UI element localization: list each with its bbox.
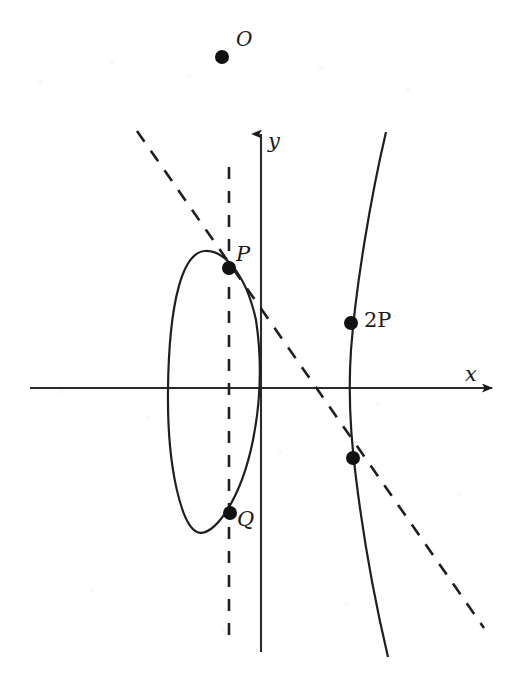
elliptic-curve-branch <box>350 132 388 657</box>
elliptic-curve-oval <box>168 251 260 533</box>
label-point-q: Q <box>237 509 254 530</box>
label-y-axis: y <box>268 131 280 152</box>
label-point-two-p: 2P <box>364 310 392 331</box>
label-origin: O <box>236 29 252 49</box>
point-p <box>222 261 236 275</box>
origin-point <box>215 50 229 64</box>
point-q <box>223 506 237 520</box>
tangent-line-at-p <box>137 131 484 628</box>
elliptic-curve-figure: O P 2P Q x y <box>0 0 510 686</box>
label-x-axis: x <box>465 364 477 385</box>
figure-canvas <box>0 0 510 686</box>
label-point-p: P <box>236 244 250 265</box>
point-two-p <box>344 316 358 330</box>
point-tangent-intersection <box>346 451 360 465</box>
